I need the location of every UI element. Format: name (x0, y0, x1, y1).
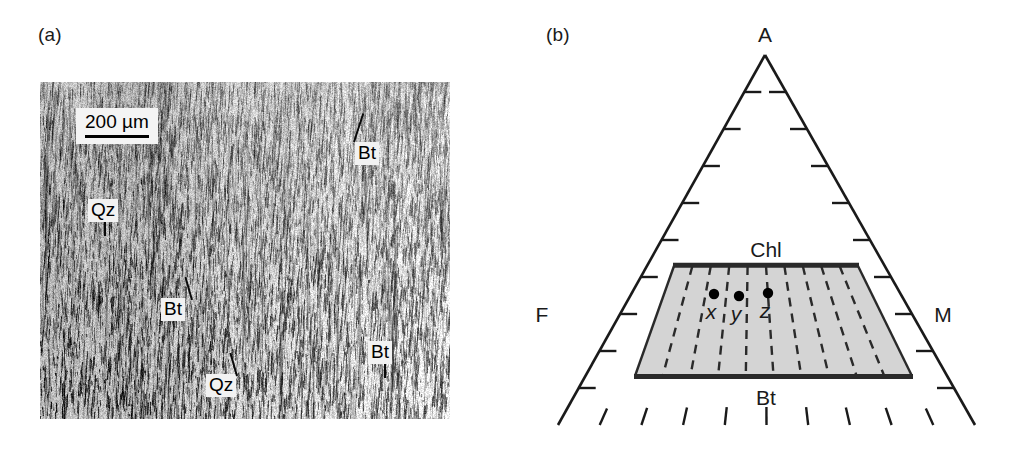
data-point-label-point-x: x (705, 300, 718, 323)
data-point-point-z (763, 288, 773, 298)
data-point-point-x (709, 289, 719, 299)
mineral-label-bt-top: Bt (355, 142, 379, 165)
data-point-labels: xyz (705, 299, 771, 325)
bottom-tick-6 (806, 407, 808, 425)
bottom-tick-8 (886, 408, 892, 425)
bottom-tick-4 (725, 407, 727, 425)
mineral-label-qz-lower: Qz (206, 374, 236, 397)
bottom-axis-ticks (600, 407, 934, 425)
vertex-label-m: M (934, 303, 952, 326)
data-point-label-point-y: y (729, 302, 743, 325)
vertex-label-f: F (536, 303, 549, 326)
bottom-tick-7 (846, 407, 850, 425)
bottom-tick-2 (641, 408, 647, 425)
figure-container: (a) 200 µm BtQzBtQzBt (b) (0, 0, 1030, 453)
panel-a-letter: (a) (38, 24, 62, 46)
leader-line-qz-upper (104, 222, 106, 236)
scale-bar-label: 200 µm (85, 111, 149, 132)
mineral-label-bt-right: Bt (368, 341, 392, 364)
scale-bar: 200 µm (76, 108, 158, 144)
mineral-label-qz-upper: Qz (88, 199, 118, 222)
mineral-label-bt-middle: Bt (161, 298, 185, 321)
bottom-tick-1 (600, 409, 607, 425)
bottom-tick-3 (683, 407, 687, 425)
chlorite-biotite-field (634, 265, 913, 376)
field-label-bt: Bt (756, 386, 776, 409)
field-fill (635, 266, 912, 376)
vertex-label-a: A (758, 23, 772, 46)
bottom-tick-9 (926, 409, 933, 425)
scale-bar-line (85, 135, 149, 138)
photomicrograph-panel: 200 µm BtQzBtQzBt (40, 82, 450, 419)
ternary-diagram-panel: xyz A F M Chl Bt (520, 10, 1020, 450)
leader-line-bt-right (384, 364, 386, 378)
data-point-label-point-z: z (759, 299, 771, 322)
field-label-chl: Chl (750, 238, 782, 261)
data-point-point-y (734, 291, 744, 301)
